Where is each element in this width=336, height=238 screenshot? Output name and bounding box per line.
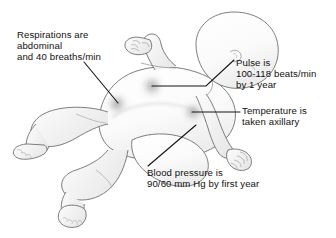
respirations-line-2: abdominal	[17, 40, 101, 51]
blood-pressure-callout: Blood pressure is 90/60 mm Hg by first y…	[147, 167, 259, 189]
infant-raised-arm	[125, 34, 176, 70]
respirations-leader-line	[84, 62, 118, 103]
temperature-line-2: taken axillary	[242, 116, 307, 127]
infant-upper-leg	[13, 107, 108, 159]
pulse-callout: Pulse is 100-118 beats/min by 1 year	[236, 57, 316, 91]
blood-pressure-line-2: 90/60 mm Hg by first year	[147, 178, 259, 189]
pulse-line-3: by 1 year	[236, 79, 316, 90]
illustration-canvas: Respirations are abdominal and 40 breath…	[0, 0, 336, 238]
abdomen-respiration-marker	[106, 93, 128, 115]
infant-lower-leg	[58, 150, 128, 227]
respirations-callout: Respirations are abdominal and 40 breath…	[17, 29, 101, 63]
blood-pressure-line-1: Blood pressure is	[147, 167, 259, 178]
pulse-line-1: Pulse is	[236, 57, 316, 68]
respirations-line-1: Respirations are	[17, 29, 101, 40]
pulse-line-2: 100-118 beats/min	[236, 68, 316, 79]
respirations-line-3: and 40 breaths/min	[17, 51, 101, 62]
temperature-callout: Temperature is taken axillary	[242, 105, 307, 127]
temperature-line-1: Temperature is	[242, 105, 307, 116]
